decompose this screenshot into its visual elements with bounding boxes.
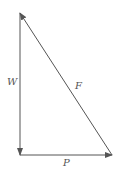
label-f: F: [74, 80, 83, 91]
label-w: W: [7, 76, 18, 87]
vector-f: [20, 13, 112, 155]
force-triangle-diagram: W F P: [0, 0, 123, 173]
label-p: P: [62, 157, 70, 168]
